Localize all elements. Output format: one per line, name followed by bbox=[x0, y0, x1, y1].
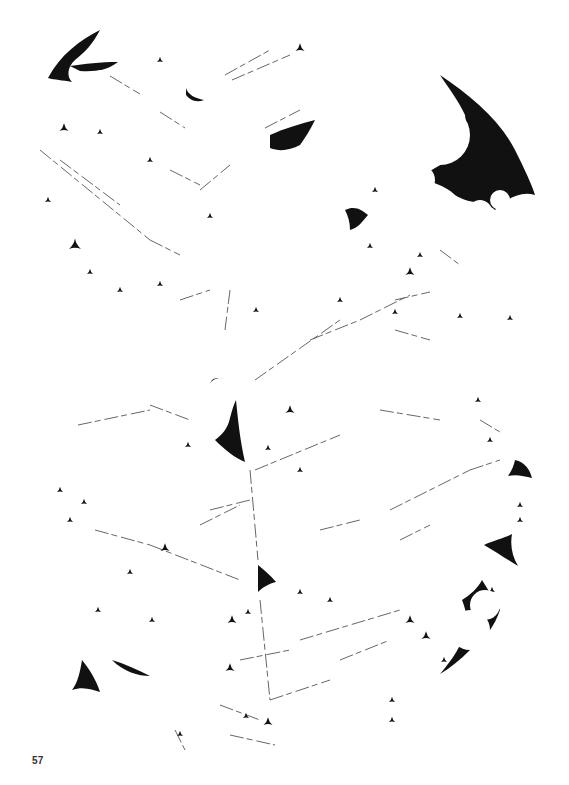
circle-cutout bbox=[470, 590, 500, 620]
small-cusp bbox=[457, 313, 463, 318]
small-cusp bbox=[517, 517, 523, 522]
small-cusp bbox=[389, 717, 395, 722]
small-cusp bbox=[392, 309, 398, 314]
line-segment bbox=[232, 55, 290, 80]
small-cusp bbox=[97, 129, 103, 134]
small-cusp bbox=[228, 615, 237, 623]
small-cusp bbox=[337, 297, 343, 302]
circle-cutout bbox=[490, 190, 510, 210]
line-segment bbox=[255, 320, 340, 380]
line-segment bbox=[40, 150, 150, 240]
small-cusp bbox=[296, 43, 305, 51]
cusp-shape bbox=[48, 30, 100, 82]
small-cusp bbox=[372, 187, 378, 192]
small-cusp bbox=[57, 487, 63, 492]
line-segment bbox=[260, 600, 270, 700]
line-segment bbox=[150, 545, 240, 580]
cusp-shape bbox=[484, 534, 518, 566]
small-cusp bbox=[60, 123, 69, 131]
line-segment bbox=[300, 610, 400, 640]
line-segment bbox=[390, 470, 470, 510]
cusp-shape bbox=[70, 62, 118, 71]
line-segment bbox=[230, 735, 275, 745]
small-cusp bbox=[297, 589, 303, 594]
line-segment bbox=[95, 530, 150, 545]
line-segment bbox=[395, 292, 430, 300]
cusp-shape bbox=[270, 120, 315, 150]
line-segment bbox=[160, 112, 185, 128]
small-cusp bbox=[127, 569, 133, 574]
line-segment bbox=[320, 520, 360, 530]
cusp-shape bbox=[186, 88, 204, 101]
line-segment bbox=[225, 50, 270, 75]
small-cusp bbox=[422, 631, 431, 639]
cusp-shape bbox=[508, 460, 532, 478]
line-segment bbox=[210, 500, 250, 510]
line-segment bbox=[180, 290, 210, 300]
small-cusp bbox=[475, 397, 481, 402]
circle-cutout bbox=[410, 105, 470, 165]
small-cusp bbox=[286, 405, 295, 413]
line-segment bbox=[78, 410, 150, 425]
small-cusp bbox=[406, 267, 415, 275]
small-cusp bbox=[327, 597, 333, 602]
small-cusp bbox=[177, 731, 183, 736]
circle-cutout bbox=[468, 200, 492, 224]
cusp-shape bbox=[345, 208, 368, 230]
small-cusp bbox=[264, 717, 273, 725]
small-cusp bbox=[147, 157, 153, 162]
page-number: 57 bbox=[32, 755, 44, 766]
circle-cutout bbox=[405, 165, 435, 195]
small-cusp bbox=[265, 445, 271, 450]
line-segment bbox=[170, 170, 200, 185]
line-segment bbox=[395, 330, 430, 340]
small-cusp bbox=[157, 281, 163, 286]
line-segment bbox=[150, 240, 180, 255]
line-segment bbox=[250, 470, 258, 560]
cusp-shape bbox=[258, 565, 276, 592]
small-cusp bbox=[417, 252, 423, 257]
line-segment bbox=[240, 650, 290, 660]
small-cusp bbox=[87, 269, 93, 274]
line-segment bbox=[270, 680, 330, 700]
cusp-shape bbox=[215, 400, 245, 462]
line-segment bbox=[400, 525, 430, 540]
small-cusp bbox=[487, 437, 493, 442]
small-cusp bbox=[81, 499, 87, 504]
fractal-artwork bbox=[0, 0, 569, 785]
small-cusp bbox=[507, 315, 513, 320]
circle-cutout bbox=[208, 378, 232, 402]
line-segment bbox=[225, 290, 230, 330]
line-segment bbox=[360, 295, 410, 320]
book-page: 57 bbox=[0, 0, 569, 785]
line-segment bbox=[480, 420, 500, 432]
line-segment bbox=[220, 705, 260, 720]
line-segment bbox=[255, 435, 340, 470]
line-segment bbox=[150, 405, 190, 420]
cusp-shape bbox=[72, 660, 100, 692]
small-cusp bbox=[95, 607, 101, 612]
small-cusp bbox=[207, 213, 213, 218]
small-cusp bbox=[389, 697, 395, 702]
small-cusp bbox=[157, 57, 163, 62]
small-cusp bbox=[226, 663, 235, 671]
small-cusp bbox=[297, 467, 303, 472]
small-cusp bbox=[245, 609, 251, 614]
small-cusp bbox=[441, 657, 447, 662]
small-cusp bbox=[406, 615, 415, 623]
small-cusp bbox=[367, 243, 373, 248]
line-segment bbox=[440, 250, 460, 265]
line-segment bbox=[470, 460, 500, 470]
small-cusp bbox=[517, 502, 523, 507]
small-cusp bbox=[45, 197, 51, 202]
line-segment bbox=[110, 76, 140, 94]
small-cusp bbox=[149, 617, 155, 622]
small-cusp bbox=[69, 239, 81, 249]
line-segment bbox=[200, 165, 230, 190]
small-cusp bbox=[67, 517, 73, 522]
small-cusp bbox=[185, 442, 191, 447]
line-segment bbox=[380, 410, 440, 420]
line-segment bbox=[340, 640, 390, 660]
small-cusp bbox=[253, 307, 259, 312]
line-segment bbox=[200, 505, 240, 525]
